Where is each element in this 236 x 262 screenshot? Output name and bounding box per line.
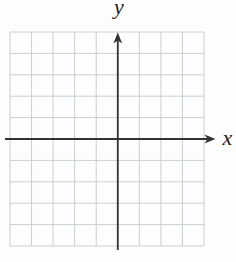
axis-lines bbox=[5, 33, 216, 251]
x-axis-label: x bbox=[219, 127, 236, 149]
y-axis-label: y bbox=[108, 0, 130, 18]
grid-svg bbox=[0, 0, 236, 262]
coordinate-plane-figure: y x bbox=[0, 0, 236, 262]
